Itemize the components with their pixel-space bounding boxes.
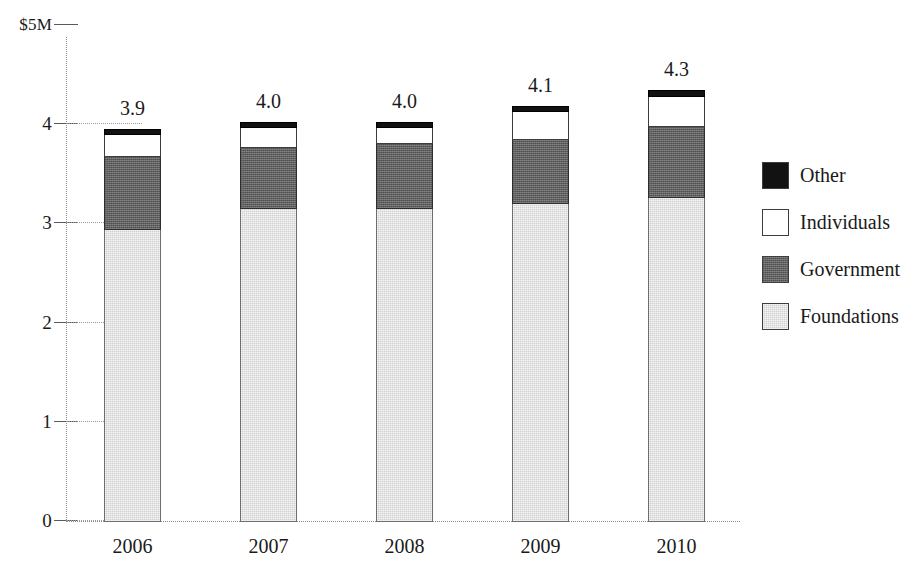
y-tick-label: 1 — [6, 409, 52, 435]
legend-item-individuals[interactable]: Individuals — [762, 207, 922, 254]
legend-label: Other — [800, 160, 846, 190]
y-axis-line — [66, 37, 67, 522]
bar-segment-government[interactable] — [240, 147, 297, 210]
legend-item-government[interactable]: Government — [762, 254, 922, 301]
bar-segment-foundations[interactable] — [104, 229, 161, 522]
bar-segment-individuals[interactable] — [512, 111, 569, 140]
bar-segment-foundations[interactable] — [240, 208, 297, 522]
bar-stack[interactable] — [376, 0, 433, 563]
bar-stack[interactable] — [648, 0, 705, 563]
bar-segment-individuals[interactable] — [240, 127, 297, 148]
y-tick-mark — [54, 24, 78, 25]
bar-segment-foundations[interactable] — [512, 203, 569, 522]
x-axis-label-2009: 2009 — [486, 534, 596, 558]
bar-segment-individuals[interactable] — [376, 127, 433, 144]
bar-segment-individuals[interactable] — [104, 134, 161, 157]
legend-swatch-foundations — [762, 303, 789, 330]
legend-swatch-government — [762, 256, 789, 283]
bar-total-label: 4.0 — [360, 89, 450, 113]
x-axis-label-2007: 2007 — [214, 534, 324, 558]
y-tick-label: 0 — [6, 508, 52, 534]
chart-page: $5M43210 3.94.04.04.14.3 200620072008200… — [0, 0, 922, 563]
y-tick-label: 2 — [6, 310, 52, 336]
legend-item-other[interactable]: Other — [762, 160, 922, 207]
bar-segment-government[interactable] — [648, 126, 705, 198]
legend-label: Government — [800, 254, 900, 284]
bar-segment-government[interactable] — [376, 143, 433, 210]
bar-segment-foundations[interactable] — [648, 197, 705, 522]
bar-segment-government[interactable] — [512, 139, 569, 205]
y-tick-label: 3 — [6, 210, 52, 236]
bar-segment-other[interactable] — [376, 122, 433, 128]
bar-segment-other[interactable] — [512, 106, 569, 112]
bar-segment-other[interactable] — [104, 129, 161, 135]
legend-swatch-individuals — [762, 209, 789, 236]
legend-swatch-other — [762, 162, 789, 189]
y-tick-label: $5M — [0, 12, 52, 38]
bar-total-label: 4.1 — [496, 73, 586, 97]
bar-total-label: 4.0 — [224, 89, 314, 113]
bar-segment-individuals[interactable] — [648, 96, 705, 127]
bar-segment-other[interactable] — [240, 122, 297, 128]
x-axis-label-2008: 2008 — [350, 534, 460, 558]
legend-label: Foundations — [800, 301, 899, 331]
y-tick-label: 4 — [6, 111, 52, 137]
chart-legend: OtherIndividualsGovernmentFoundations — [762, 160, 922, 348]
x-axis-label-2010: 2010 — [622, 534, 732, 558]
bar-stack[interactable] — [240, 0, 297, 563]
x-axis-label-2006: 2006 — [78, 534, 188, 558]
legend-label: Individuals — [800, 207, 890, 237]
bar-total-label: 4.3 — [632, 57, 722, 81]
bar-segment-foundations[interactable] — [376, 208, 433, 522]
bar-segment-other[interactable] — [648, 90, 705, 97]
bar-total-label: 3.9 — [88, 96, 178, 120]
bar-stack[interactable] — [104, 0, 161, 563]
legend-item-foundations[interactable]: Foundations — [762, 301, 922, 348]
bar-segment-government[interactable] — [104, 156, 161, 230]
